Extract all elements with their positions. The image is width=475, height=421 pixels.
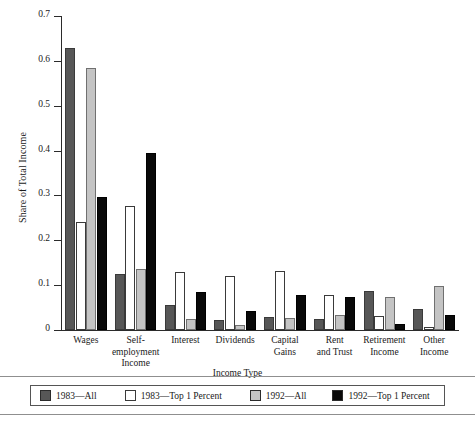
legend-swatch-icon xyxy=(332,390,343,401)
bar xyxy=(246,311,256,330)
y-axis-tick: 0.7 xyxy=(54,16,61,17)
bar xyxy=(374,316,384,330)
bar xyxy=(385,297,395,330)
bar xyxy=(136,269,146,330)
legend-label: 1983—All xyxy=(56,391,97,401)
legend-label: 1983—Top 1 Percent xyxy=(141,391,222,401)
bar xyxy=(314,319,324,330)
bar xyxy=(364,291,374,330)
y-axis-tick: 0.2 xyxy=(54,240,61,241)
bar xyxy=(186,319,196,330)
divider-top xyxy=(0,376,475,377)
y-axis-tick-label: 0.7 xyxy=(38,9,50,19)
legend-swatch-icon xyxy=(250,390,261,401)
legend-swatch-icon xyxy=(40,390,51,401)
bar xyxy=(434,286,444,330)
bar xyxy=(285,318,295,330)
bar xyxy=(445,315,455,330)
y-axis-tick: 0.4 xyxy=(54,151,61,152)
x-axis-line xyxy=(61,330,459,331)
legend-label: 1992—Top 1 Percent xyxy=(348,391,429,401)
bar xyxy=(76,222,86,330)
bar-group xyxy=(364,16,406,330)
y-axis-tick-label: 0.4 xyxy=(38,144,50,154)
bar xyxy=(335,315,345,330)
bar xyxy=(264,317,274,330)
chart-legend: 1983—All1983—Top 1 Percent1992—All1992—T… xyxy=(30,385,445,406)
legend-item: 1983—Top 1 Percent xyxy=(125,390,222,401)
bar xyxy=(296,295,306,330)
bar xyxy=(225,276,235,330)
bar xyxy=(86,68,96,330)
y-axis-tick-label: 0.6 xyxy=(38,54,50,64)
bar-group xyxy=(314,16,356,330)
y-axis-title: Share of Total Income xyxy=(17,98,28,258)
x-axis-tick-label-line: Other xyxy=(391,335,475,347)
bar xyxy=(345,297,355,330)
y-axis-tick-label: 0 xyxy=(45,323,50,333)
x-axis-tick-label-line: employment xyxy=(93,347,179,359)
bar xyxy=(413,309,423,330)
bar xyxy=(235,325,245,330)
legend-item: 1983—All xyxy=(40,390,97,401)
bar-group xyxy=(264,16,306,330)
bar xyxy=(165,305,175,330)
legend-swatch-icon xyxy=(125,390,136,401)
plot-area: 00.10.20.30.40.50.60.7 WagesSelf-employm… xyxy=(61,16,459,330)
y-axis-tick-label: 0.2 xyxy=(38,233,50,243)
y-axis-tick-label: 0.5 xyxy=(38,99,50,109)
bar xyxy=(214,320,224,330)
y-axis-tick: 0.3 xyxy=(54,195,61,196)
y-axis-line xyxy=(61,16,62,330)
y-axis-tick: 0.6 xyxy=(54,61,61,62)
bar-group xyxy=(214,16,256,330)
bar xyxy=(125,206,135,330)
x-axis-tick-label: OtherIncome xyxy=(391,335,475,358)
bar xyxy=(424,327,434,330)
chart-figure: Share of Total Income 00.10.20.30.40.50.… xyxy=(0,0,475,421)
bar xyxy=(115,274,125,330)
legend-item: 1992—All xyxy=(250,390,307,401)
bar xyxy=(275,271,285,330)
y-axis-tick-label: 0.3 xyxy=(38,188,50,198)
bar-group xyxy=(413,16,455,330)
bar-group xyxy=(65,16,107,330)
divider-bottom xyxy=(0,414,475,415)
legend-label: 1992—All xyxy=(266,391,307,401)
bar xyxy=(324,295,334,330)
bar xyxy=(196,292,206,330)
y-axis-tick: 0.1 xyxy=(54,285,61,286)
y-axis-tick-label: 0.1 xyxy=(38,278,50,288)
bar-group xyxy=(115,16,157,330)
bar-group xyxy=(165,16,207,330)
bar xyxy=(395,324,405,330)
bar xyxy=(146,153,156,330)
legend-item: 1992—Top 1 Percent xyxy=(332,390,429,401)
bar xyxy=(97,197,107,330)
y-axis-tick: 0 xyxy=(54,330,61,331)
bar xyxy=(175,272,185,330)
bar xyxy=(65,48,75,330)
y-axis-tick: 0.5 xyxy=(54,106,61,107)
x-axis-tick-label-line: Income xyxy=(391,347,475,359)
